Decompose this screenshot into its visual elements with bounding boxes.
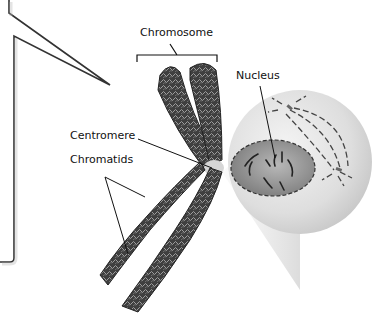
chromosome: [100, 63, 224, 312]
label-chromatids: Chromatids: [70, 153, 133, 166]
cell: [228, 90, 372, 234]
chromosome-bracket: [137, 44, 217, 62]
label-chromosome: Chromosome: [140, 26, 213, 39]
label-nucleus: Nucleus: [236, 69, 280, 82]
chromosome-diagram: [0, 0, 384, 322]
label-centromere: Centromere: [70, 129, 135, 142]
